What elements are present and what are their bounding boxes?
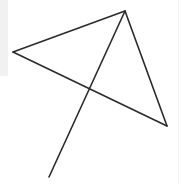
background-layer bbox=[0, 0, 179, 184]
left-gray-band bbox=[0, 0, 8, 76]
segment-apex-to-tail bbox=[49, 11, 125, 177]
figure-canvas bbox=[0, 0, 183, 184]
segments-layer bbox=[13, 11, 167, 177]
line-figure-svg bbox=[0, 0, 183, 184]
